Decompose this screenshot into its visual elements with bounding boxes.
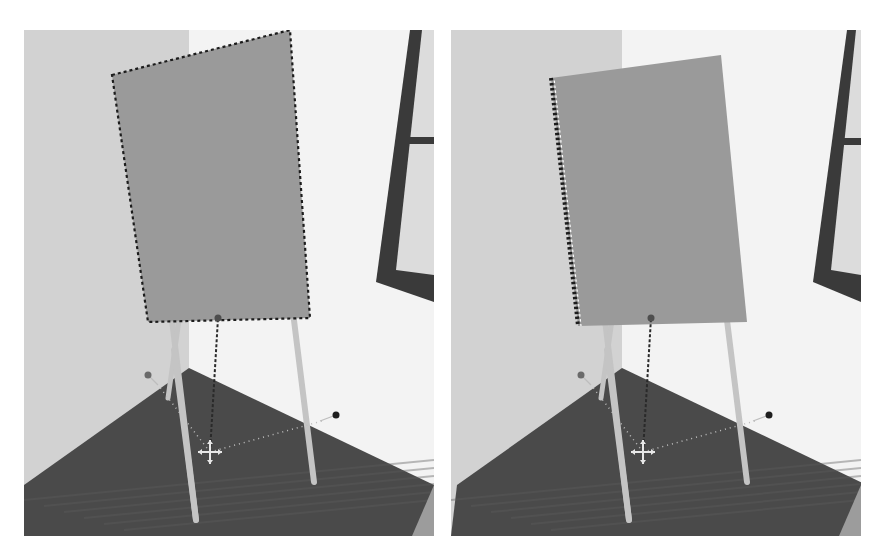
gizmo-handle-right (333, 412, 340, 419)
gizmo-handle-up (648, 315, 655, 322)
gizmo-handle-left (145, 372, 152, 379)
render-panel-left (24, 30, 434, 536)
render-panel-right (451, 30, 861, 536)
easel-board (551, 55, 747, 326)
scene-right (451, 30, 861, 536)
window-mullion (404, 137, 434, 144)
gizmo-handle-right (766, 412, 773, 419)
gizmo-handle-up (215, 315, 222, 322)
gizmo-handle-left (578, 372, 585, 379)
window-mullion (839, 138, 861, 145)
scene-left (24, 30, 434, 536)
